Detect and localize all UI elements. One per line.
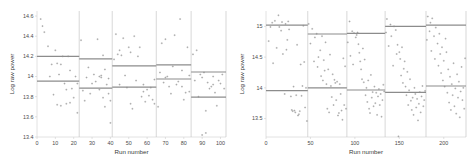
data-point [333, 79, 335, 81]
data-point [341, 119, 343, 121]
data-point [278, 26, 280, 28]
data-point [284, 93, 286, 95]
data-point [188, 75, 190, 77]
data-point [144, 101, 146, 103]
data-point [164, 77, 166, 79]
data-point [421, 85, 423, 87]
data-point [179, 18, 181, 20]
data-point [457, 97, 459, 99]
data-point [366, 101, 368, 103]
data-point [329, 54, 331, 56]
data-point [290, 95, 292, 97]
data-point [314, 36, 316, 38]
x-tick-label: 50 [126, 140, 132, 146]
data-point [379, 104, 381, 106]
x-axis-title: Run number [349, 148, 383, 155]
data-point [438, 33, 440, 35]
data-point [367, 80, 369, 82]
data-point [75, 76, 77, 78]
data-point [214, 92, 216, 94]
y-tick-label: 14 [257, 85, 263, 91]
data-point [117, 53, 119, 55]
data-point [416, 98, 418, 100]
data-point [402, 82, 404, 84]
data-point [146, 89, 148, 91]
data-point [108, 78, 110, 80]
data-point [269, 26, 271, 28]
data-point [80, 39, 82, 41]
data-point [133, 35, 135, 37]
data-point [87, 66, 89, 68]
x-tick-label: 90 [199, 140, 205, 146]
data-point [69, 102, 71, 104]
data-point [325, 41, 327, 43]
data-point [406, 71, 408, 73]
x-tick-label: 10 [52, 140, 58, 146]
data-point [401, 46, 403, 48]
y-tick-label: 14.5 [252, 54, 263, 60]
data-point [397, 44, 399, 46]
data-point [371, 97, 373, 99]
data-point [456, 73, 458, 75]
data-point [433, 35, 435, 37]
x-axis-title: Run number [114, 148, 148, 155]
data-point [400, 75, 402, 77]
data-point [403, 68, 405, 70]
data-point [386, 18, 388, 20]
data-point [280, 30, 282, 32]
data-point [82, 90, 84, 92]
data-point [100, 77, 102, 79]
data-point [212, 76, 214, 78]
data-point [142, 91, 144, 93]
data-point [168, 86, 170, 88]
data-point [60, 105, 62, 107]
data-point [332, 73, 334, 75]
data-point [462, 87, 464, 89]
data-point [381, 116, 383, 118]
data-point [349, 55, 351, 57]
data-point [388, 45, 390, 47]
data-point [382, 84, 384, 86]
data-point [113, 58, 115, 60]
data-point [119, 84, 121, 86]
y-tick-label: 13.4 [23, 134, 34, 140]
data-point [408, 89, 410, 91]
data-point [373, 105, 375, 107]
data-point [357, 43, 359, 45]
data-point [342, 57, 344, 59]
data-point [409, 78, 411, 80]
data-point [172, 65, 174, 67]
data-point [324, 70, 326, 72]
data-point [73, 97, 75, 99]
data-point [152, 99, 154, 101]
y-axis-title: Log raw power [8, 54, 15, 95]
data-point [300, 64, 302, 66]
data-point [375, 92, 377, 94]
data-point [301, 95, 303, 97]
data-point [412, 97, 414, 99]
data-point [53, 94, 55, 96]
data-point [122, 37, 124, 39]
data-point [56, 104, 58, 106]
data-point [282, 53, 284, 55]
x-tick-label: 100 [216, 140, 225, 146]
x-tick-label: 70 [162, 140, 168, 146]
data-point [372, 91, 374, 93]
data-point [437, 43, 439, 45]
data-point [212, 84, 214, 86]
data-point [181, 86, 183, 88]
data-point [418, 103, 420, 105]
data-point [109, 100, 111, 102]
data-point [207, 82, 209, 84]
data-point [64, 83, 66, 85]
x-tick-label: 50 [307, 140, 313, 146]
data-point [423, 99, 425, 101]
data-point [360, 68, 362, 70]
x-tick-label: 20 [71, 140, 77, 146]
data-point [369, 112, 371, 114]
segment-dividers-group [308, 11, 466, 137]
data-point [442, 80, 444, 82]
data-point [286, 39, 288, 41]
data-point [405, 94, 407, 96]
x-tick-label: 0 [36, 140, 39, 146]
